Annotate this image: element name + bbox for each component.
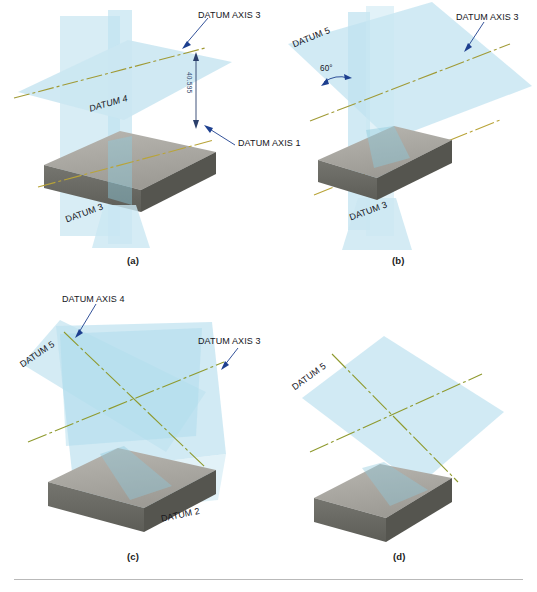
footer-rule (14, 579, 523, 580)
label-datum-axis-3: DATUM AXIS 3 (198, 10, 261, 20)
leader-datum-axis-1 (208, 128, 235, 145)
panel-c-illustration (0, 286, 268, 571)
plane-overlap-region (60, 328, 202, 446)
label-datum-axis-3: DATUM AXIS 3 (198, 336, 261, 346)
datum-4-plane (18, 40, 232, 120)
figure-root: DATUM AXIS 3 DATUM AXIS 1 DATUM 4 DATUM … (0, 0, 537, 592)
datum-3-over-block (108, 136, 132, 205)
dimension-value: 40.595 (186, 72, 193, 93)
datum-5-plane (302, 336, 504, 486)
leader-arrow-datum-axis-1 (204, 125, 213, 133)
dimension-arrow-bottom (193, 120, 199, 129)
panel-c: DATUM AXIS 4 DATUM AXIS 3 DATUM 5 DATUM … (0, 286, 268, 571)
label-angle-60: 60° (320, 64, 333, 73)
caption-a: (a) (127, 255, 139, 266)
caption-d: (d) (393, 551, 406, 562)
leader-datum-axis-3 (185, 18, 208, 45)
panel-a-illustration (0, 0, 268, 268)
panel-b: DATUM 5 60° DATUM AXIS 3 DATUM 3 (b) (262, 0, 537, 268)
caption-c: (c) (127, 551, 139, 562)
label-datum-axis-4: DATUM AXIS 4 (62, 294, 125, 304)
caption-b: (b) (392, 255, 405, 266)
panel-d: DATUM 5 (d) (262, 286, 537, 571)
label-datum-axis-3: DATUM AXIS 3 (456, 12, 519, 22)
panel-a: DATUM AXIS 3 DATUM AXIS 1 DATUM 4 DATUM … (0, 0, 268, 268)
leader-arrow-datum-axis-3 (182, 41, 191, 49)
panel-d-illustration (262, 286, 537, 571)
